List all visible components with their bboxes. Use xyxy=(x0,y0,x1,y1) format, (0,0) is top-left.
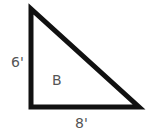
horizontal-side-label: 8' xyxy=(75,115,88,131)
vertical-side-label: 6' xyxy=(11,54,24,70)
triangle-name-label: B xyxy=(52,72,62,88)
triangle-diagram: 6' B 8' xyxy=(0,0,147,134)
right-triangle xyxy=(31,9,139,107)
